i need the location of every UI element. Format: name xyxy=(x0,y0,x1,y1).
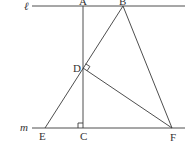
label-line-m: m xyxy=(20,121,28,133)
segment-bf xyxy=(123,6,172,128)
right-angle-mark-d xyxy=(86,64,90,71)
label-point-b: B xyxy=(119,0,126,7)
segment-be xyxy=(45,6,123,128)
label-point-a: A xyxy=(79,0,87,7)
label-point-c: C xyxy=(80,130,87,142)
label-point-e: E xyxy=(39,130,46,142)
label-line-l: ℓ xyxy=(24,0,29,12)
right-angle-mark-c xyxy=(78,123,83,128)
label-point-d: D xyxy=(73,62,81,74)
label-point-f: F xyxy=(170,131,176,143)
geometry-diagram: ℓ m A B D E C F xyxy=(0,0,196,157)
segment-df xyxy=(83,68,172,128)
